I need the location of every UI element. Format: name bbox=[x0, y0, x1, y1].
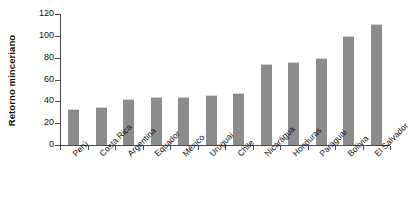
y-axis-tick-label: 40 bbox=[14, 96, 54, 105]
y-axis-tick-label: 0 bbox=[14, 140, 54, 149]
plot-area bbox=[60, 14, 390, 145]
bar bbox=[68, 109, 79, 145]
bar bbox=[343, 36, 354, 145]
y-axis-tick-label: 80 bbox=[14, 53, 54, 62]
y-axis-tick-label: 100 bbox=[14, 31, 54, 40]
bar bbox=[206, 95, 217, 145]
x-axis-tick bbox=[60, 146, 61, 150]
bar bbox=[371, 24, 382, 145]
y-axis-tick-label: 20 bbox=[14, 118, 54, 127]
y-axis-tick-label: 60 bbox=[14, 75, 54, 84]
bar bbox=[96, 107, 107, 145]
bar bbox=[261, 64, 272, 145]
y-axis-tick-label: 120 bbox=[14, 9, 54, 18]
